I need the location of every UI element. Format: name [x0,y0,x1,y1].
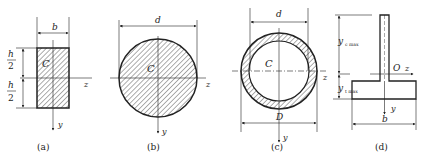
centroid-label: C [42,58,50,69]
y-axis-label: y [57,120,63,129]
width-label: b [382,114,388,124]
panel-b-solid-circle: d C z y (b) [110,15,211,152]
origin-label: O [393,63,401,73]
y-axis-label: y [161,127,167,136]
z-axis-label: z [404,64,410,73]
y-axis-label: y [282,133,288,142]
centroid-label: C [265,58,273,69]
y-c-max-label: y [337,36,344,46]
half-height-bottom-den: 2 [8,93,14,103]
panel-c-hollow-circle: d D C z y (c) [232,8,328,152]
caption-c: (c) [271,142,283,152]
z-axis-label: z [322,73,328,82]
caption-b: (b) [147,142,160,152]
centroid-label: C [147,63,155,74]
t-section-outline [352,15,416,99]
panel-d-t-section: y c max y t max O z y b (d) [333,15,416,152]
inner-diameter-label: d [276,9,282,19]
half-height-bottom-num: h [8,80,14,90]
y-t-max-label: y [337,83,344,93]
y-axis-label: y [390,104,396,113]
width-label: b [52,22,58,32]
z-axis-label: z [83,80,89,89]
caption-d: (d) [375,142,388,152]
half-height-top-den: 2 [8,61,14,71]
caption-a: (a) [37,142,49,152]
y-t-max-subscript: t max [345,89,358,94]
z-axis-label: z [205,80,211,89]
cross-sections-figure: b h 2 h 2 C z y (a) d C z y (b) [0,0,425,166]
panel-a-rectangle: b h 2 h 2 C z y (a) [7,17,92,152]
y-c-max-subscript: c max [345,42,359,47]
half-height-top-num: h [8,49,14,59]
diameter-label: d [155,15,161,25]
